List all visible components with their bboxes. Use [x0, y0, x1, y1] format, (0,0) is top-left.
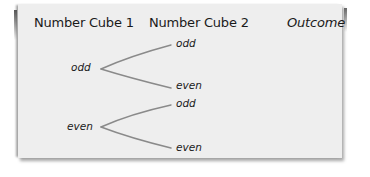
node-cube1-even: even	[67, 120, 93, 132]
node-cube2-even-odd: odd	[176, 97, 196, 109]
header-number-cube-1: Number Cube 1	[34, 15, 134, 30]
node-cube2-odd-even: even	[176, 79, 202, 91]
header-number-cube-2: Number Cube 2	[149, 15, 249, 30]
node-cube2-even-even: even	[176, 141, 202, 153]
node-cube2-odd-odd: odd	[176, 37, 196, 49]
node-cube1-odd: odd	[71, 61, 91, 73]
stage: Number Cube 1 Number Cube 2 Outcome odd …	[0, 0, 370, 177]
header-outcome: Outcome	[287, 15, 345, 30]
